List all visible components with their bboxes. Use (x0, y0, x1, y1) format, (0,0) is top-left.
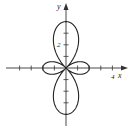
polar-plot: x y 4 2 (0, 0, 132, 129)
x-axis-arrow-icon (121, 66, 128, 71)
y-axis-arrow-icon (64, 3, 69, 10)
y-axis-label: y (56, 2, 61, 11)
x-axis-label: x (117, 71, 122, 80)
y-tick-label-2: 2 (57, 41, 61, 49)
x-tick-label-4: 4 (111, 73, 115, 81)
